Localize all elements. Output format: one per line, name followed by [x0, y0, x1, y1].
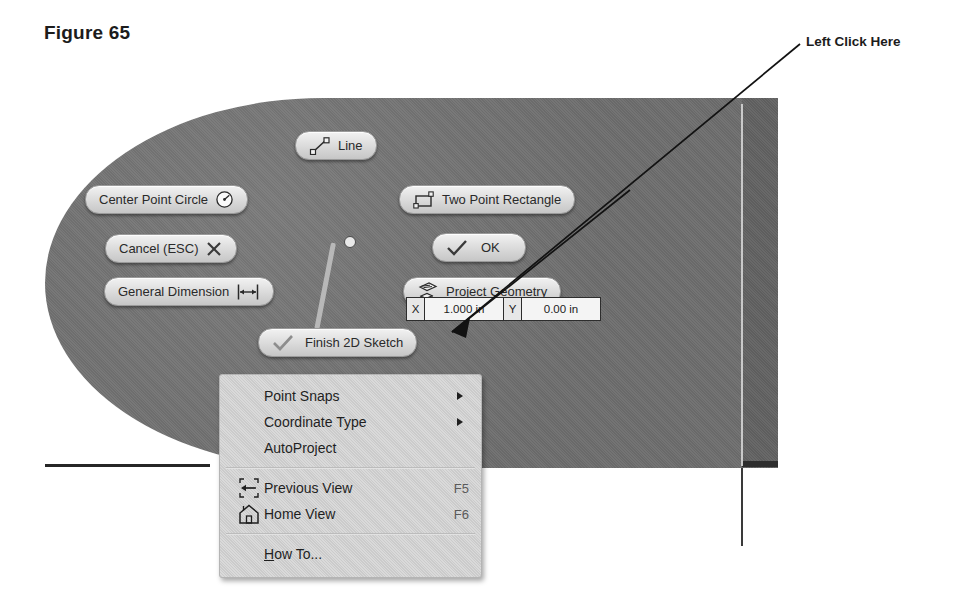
context-menu-item-label-rest: ow To... [274, 546, 322, 562]
marking-menu-label: OK [475, 241, 512, 254]
circle-center-icon [215, 190, 234, 209]
marking-menu-label: Finish 2D Sketch [301, 336, 403, 349]
marking-menu-button-cancel[interactable]: Cancel (ESC) [105, 234, 237, 263]
coordinate-y-input[interactable]: 0.00 in [522, 298, 600, 320]
page-title: Figure 65 [44, 22, 130, 44]
context-menu-item-how-to[interactable]: How To... [220, 541, 481, 567]
mnemonic-letter: H [264, 546, 274, 562]
marking-menu-label: Two Point Rectangle [442, 193, 561, 206]
callout-label: Left Click Here [806, 34, 901, 49]
rectangle-icon [413, 191, 435, 209]
marking-menu-button-line[interactable]: Line [295, 131, 377, 160]
context-menu-item-shortcut: F6 [442, 507, 469, 522]
context-menu[interactable]: Point Snaps Coordinate Type AutoProject … [219, 374, 482, 578]
context-menu-item-label: Coordinate Type [264, 414, 457, 430]
context-menu-item-previous-view[interactable]: Previous View F5 [220, 475, 481, 501]
submenu-arrow-icon [457, 392, 463, 400]
sketch-point-marker [344, 236, 356, 248]
submenu-arrow-icon [457, 418, 463, 426]
check-icon [272, 334, 294, 352]
menu-separator [226, 467, 475, 469]
marking-menu-label: Center Point Circle [99, 193, 208, 206]
menu-separator [226, 533, 475, 535]
home-view-icon [234, 503, 264, 525]
context-menu-item-shortcut: F5 [442, 481, 469, 496]
part-bottom-edge [742, 461, 778, 467]
context-menu-item-home-view[interactable]: Home View F6 [220, 501, 481, 527]
marking-menu-button-two-point-rectangle[interactable]: Two Point Rectangle [399, 185, 575, 214]
context-menu-item-label: Home View [264, 506, 442, 522]
part-vertical-edge-highlight [741, 104, 743, 466]
marking-menu-label: Line [338, 139, 363, 152]
marking-menu-label: General Dimension [118, 285, 229, 298]
check-icon [446, 239, 468, 257]
coordinate-y-key: Y [504, 298, 522, 320]
part-vertical-edge-lower [741, 468, 743, 546]
marking-menu-button-ok[interactable]: OK [432, 233, 526, 262]
context-menu-item-label: Previous View [264, 480, 442, 496]
context-menu-item-autoproject[interactable]: AutoProject [220, 435, 481, 461]
context-menu-item-coordinate-type[interactable]: Coordinate Type [220, 409, 481, 435]
marking-menu-button-general-dimension[interactable]: General Dimension [104, 277, 274, 306]
marking-menu-button-center-point-circle[interactable]: Center Point Circle [85, 185, 248, 214]
close-x-icon [205, 240, 223, 258]
part-bottom-left-edge [45, 464, 210, 467]
marking-menu-label: Cancel (ESC) [119, 242, 198, 255]
previous-view-icon [234, 477, 264, 499]
coordinate-entry-strip[interactable]: X 1.000 in Y 0.00 in [406, 297, 601, 321]
marking-menu-button-finish-2d-sketch[interactable]: Finish 2D Sketch [258, 328, 417, 357]
part-side-face [742, 98, 778, 468]
context-menu-item-point-snaps[interactable]: Point Snaps [220, 383, 481, 409]
context-menu-item-label: How To... [264, 546, 469, 562]
context-menu-item-label: Point Snaps [264, 388, 457, 404]
line-icon [309, 137, 331, 155]
coordinate-x-key: X [407, 298, 425, 320]
coordinate-x-input[interactable]: 1.000 in [425, 298, 504, 320]
dimension-icon [236, 283, 260, 301]
context-menu-item-label: AutoProject [264, 440, 469, 456]
